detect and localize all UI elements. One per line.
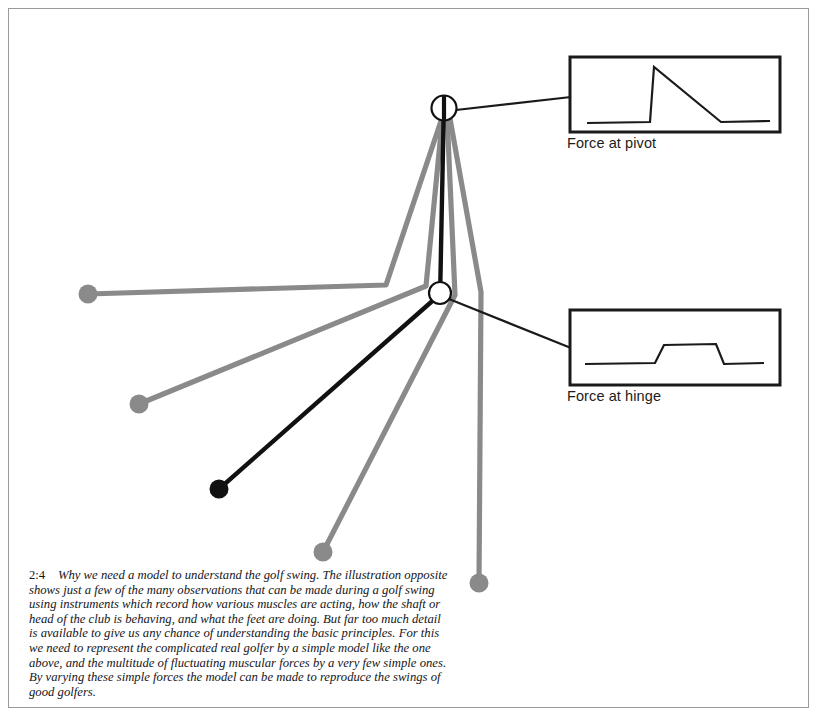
caption-text: Why we need a model to understand the go… — [29, 568, 447, 699]
arm-upper-left — [88, 112, 444, 294]
force-at-hinge-box — [570, 310, 780, 385]
club-head-marker-lower-mid — [314, 543, 333, 562]
gray-club-head-markers — [79, 285, 489, 593]
arm-lower-right — [449, 113, 481, 583]
force-at-pivot-label: Force at pivot — [567, 135, 656, 151]
club-head-marker-lower-left — [130, 395, 149, 414]
club-head-marker-lower-right — [470, 574, 489, 593]
club-head-marker-upper-left — [79, 285, 98, 304]
pivot-connector-line — [456, 97, 571, 110]
gray-arms-group — [88, 112, 481, 583]
force-at-pivot-chart — [570, 57, 780, 132]
force-at-hinge-label: Force at hinge — [567, 388, 661, 404]
hinge-connector-line — [449, 299, 571, 348]
force-at-hinge-chart — [570, 310, 780, 385]
figure-page: Force at pivot Force at hinge 2:4 Why we… — [0, 0, 826, 718]
caption-number: 2:4 — [29, 568, 58, 582]
black-club-head-marker — [210, 480, 229, 499]
figure-caption: 2:4 Why we need a model to understand th… — [29, 568, 449, 699]
hinge-joint — [429, 282, 451, 304]
